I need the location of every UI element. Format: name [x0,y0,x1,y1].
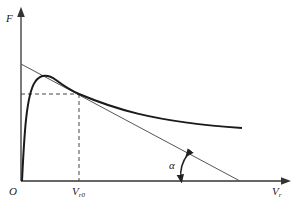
v-r0-label: Vr0 [72,185,85,199]
force-curve [22,76,242,181]
angle-arc [181,154,188,179]
x-axis-label: Vr [272,185,282,199]
diagram-canvas: F O Vr0 Vr α [0,0,297,206]
origin-label: O [9,185,17,197]
y-axis-label: F [5,12,13,24]
alpha-label: α [169,159,175,171]
tangent-line [21,64,240,181]
